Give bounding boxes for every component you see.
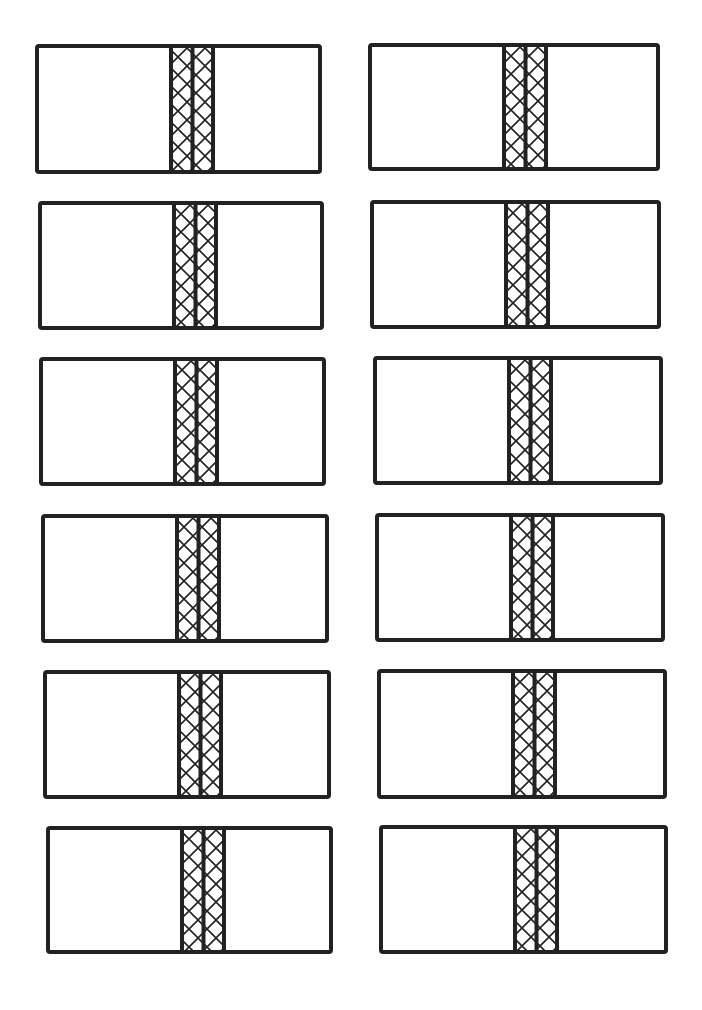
crosshatch-band — [180, 830, 226, 950]
hatched-rectangle-9 — [43, 670, 331, 799]
crosshatch-band — [172, 205, 218, 326]
hatched-rectangle-12 — [379, 825, 668, 954]
hatched-rectangle-11 — [46, 826, 333, 954]
hatched-rectangle-2 — [368, 43, 660, 171]
crosshatch-band — [504, 204, 550, 325]
crosshatch-band — [175, 518, 221, 639]
hatched-rectangle-3 — [38, 201, 324, 330]
hatched-rectangle-1 — [35, 44, 322, 174]
hatched-rectangle-8 — [375, 513, 665, 642]
crosshatch-band — [173, 361, 219, 482]
hatched-rectangle-5 — [39, 357, 326, 486]
crosshatch-band — [169, 48, 215, 170]
crosshatch-band — [511, 673, 557, 795]
crosshatch-band — [509, 517, 555, 638]
hatched-rectangle-10 — [377, 669, 667, 799]
crosshatch-band — [177, 674, 223, 795]
hatched-rectangle-7 — [41, 514, 329, 643]
hatched-rectangle-4 — [370, 200, 661, 329]
crosshatch-band — [507, 360, 553, 481]
hatched-rectangle-6 — [373, 356, 663, 485]
crosshatch-band — [513, 829, 559, 950]
crosshatch-band — [502, 47, 548, 167]
